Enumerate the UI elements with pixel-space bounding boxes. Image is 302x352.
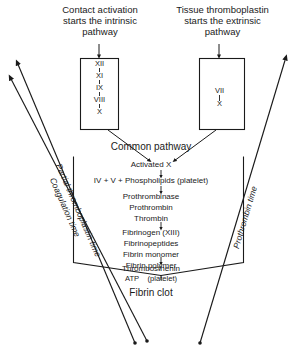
step-thrombin: Thrombin [0, 214, 302, 223]
step-fibrinogen: Fibrinogen (XIII) [0, 228, 302, 237]
fibrin-clot-label: Fibrin clot [0, 287, 302, 299]
step-prothrombin: Prothrombin [0, 203, 302, 212]
extrinsic-factor-vii: VII [205, 87, 234, 96]
extrinsic-factor-x: X [205, 100, 234, 109]
step-thrombosthenin: Thrombosthenin [0, 264, 302, 273]
common-pathway-title: Common pathway [0, 141, 302, 153]
step-fibrinopeptides: Fibrinopeptides [0, 239, 302, 248]
step-phospholipids: IV + V + Phospholipids (platelet) [0, 176, 302, 185]
intrinsic-factor-ix: IX [85, 84, 114, 93]
step-activated-x: Activated X [0, 160, 302, 169]
step-fibrin-monomer: Fibrin monomer [0, 250, 302, 259]
coagulation-cascade-diagram: Contact activation starts the intrinsic … [0, 0, 302, 352]
intrinsic-factor-xii: XII [85, 60, 114, 69]
intrinsic-factor-viii: VIII [85, 96, 114, 105]
intrinsic-factor-x: X [85, 108, 114, 117]
extrinsic-pathway-header: Tissue thromboplastin starts the extrins… [150, 4, 295, 38]
step-atp-platelet: ATP (platelet) [0, 275, 302, 284]
intrinsic-factor-xi: XI [85, 72, 114, 81]
intrinsic-pathway-header: Contact activation starts the intrinsic … [30, 4, 170, 38]
